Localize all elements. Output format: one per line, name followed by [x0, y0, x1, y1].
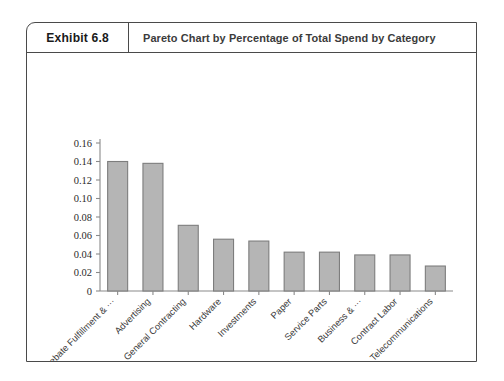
exhibit-header: Exhibit 6.8 Pareto Chart by Percentage o… — [27, 23, 476, 53]
exhibit-number-label: Exhibit 6.8 — [46, 30, 109, 45]
x-axis-category-label: Telecommunications — [368, 296, 435, 361]
y-axis-tick-label: 0.14 — [74, 156, 93, 167]
bar — [143, 163, 163, 291]
bar — [178, 225, 198, 291]
x-axis-category-label: Hardware — [187, 296, 223, 332]
y-axis-tick-label: 0.04 — [74, 249, 93, 260]
y-axis-tick-label: 0.16 — [74, 138, 92, 149]
y-axis-tick-label: 0.12 — [74, 175, 92, 186]
exhibit-number-cell: Exhibit 6.8 — [27, 23, 129, 52]
bar — [319, 252, 339, 291]
exhibit-frame: Exhibit 6.8 Pareto Chart by Percentage o… — [26, 22, 477, 362]
y-axis-tick-label: 0.06 — [74, 230, 92, 241]
exhibit-title-label: Pareto Chart by Percentage of Total Spen… — [143, 32, 436, 44]
bar — [390, 255, 410, 291]
bar — [108, 162, 128, 292]
bar — [355, 255, 375, 291]
x-axis-category-label: Paper — [269, 296, 294, 321]
x-axis-category-label: Investments — [216, 296, 259, 339]
pareto-chart: 0.160.140.120.100.080.060.040.020Rebate … — [27, 53, 476, 361]
bar — [249, 241, 269, 291]
bar — [425, 266, 445, 291]
x-axis-category-label: Rebate Fulfillment & ··· — [42, 296, 117, 361]
bar — [284, 252, 304, 291]
x-axis-category-label: General Contracting — [122, 296, 188, 361]
y-axis-tick-label: 0 — [87, 286, 92, 297]
bar — [214, 239, 234, 291]
chart-canvas: 0.160.140.120.100.080.060.040.020Rebate … — [27, 53, 476, 361]
exhibit-title-cell: Pareto Chart by Percentage of Total Spen… — [129, 23, 476, 52]
y-axis-tick-label: 0.10 — [74, 193, 92, 204]
y-axis-tick-label: 0.02 — [74, 267, 92, 278]
y-axis-tick-label: 0.08 — [74, 212, 92, 223]
